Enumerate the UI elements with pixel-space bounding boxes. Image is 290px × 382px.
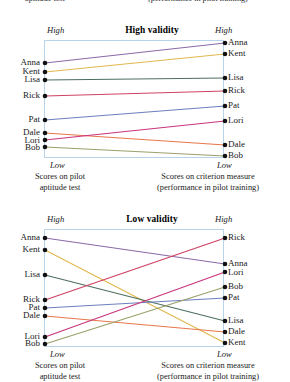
right-label-pat-low: Pat xyxy=(228,293,240,302)
slope-line-rick xyxy=(45,238,225,300)
slope-line-lori xyxy=(45,121,225,140)
left-label-lisa: Lisa xyxy=(25,75,41,84)
left-axis-low-anchor-low: Low xyxy=(50,348,65,360)
caption-right-low-line2: (performance in pilot training) xyxy=(128,372,288,382)
page-title-high-validity: High validity xyxy=(0,24,290,36)
panel-header-low: High Low validity High xyxy=(0,213,290,227)
panel-header-high: High High validity High xyxy=(0,24,290,38)
endpoint-dot-right-lisa xyxy=(223,319,228,324)
left-axis-low-anchor: Low xyxy=(50,159,65,171)
endpoint-dot-right-bob xyxy=(223,285,228,290)
endpoint-dot-right-pat xyxy=(223,104,228,109)
endpoint-dot-left-rick xyxy=(43,94,48,99)
right-label-kent-low: Kent xyxy=(228,338,246,347)
caption-left-high-line1: Scores on pilot xyxy=(6,172,114,183)
left-label-dale-low: Dale xyxy=(23,311,40,320)
left-label-pat: Pat xyxy=(28,115,40,124)
endpoint-dot-left-bob xyxy=(43,145,48,150)
slope-line-dale xyxy=(45,133,225,145)
right-label-dale-low: Dale xyxy=(228,327,245,336)
clipped-caption-right: (performance in pilot training) xyxy=(148,0,248,4)
low-anchor-row-low: Low Low xyxy=(0,348,290,361)
left-label-bob-low: Bob xyxy=(25,339,40,348)
endpoint-dot-left-dale xyxy=(43,314,48,319)
endpoint-dot-right-lisa xyxy=(223,76,228,81)
caption-left-low-line2: aptitude test xyxy=(6,372,114,382)
left-label-kent-low: Kent xyxy=(23,245,41,254)
right-label-lisa: Lisa xyxy=(228,73,244,82)
endpoint-dot-left-kent xyxy=(43,248,48,253)
endpoint-dot-right-kent xyxy=(223,341,228,346)
left-label-anna-low: Anna xyxy=(21,233,41,242)
endpoint-dot-right-lori xyxy=(223,270,228,275)
endpoint-dot-right-anna xyxy=(223,41,228,46)
slope-line-anna xyxy=(45,43,225,63)
endpoint-dot-left-lisa xyxy=(43,273,48,278)
panel-high-validity: High High validity High Anna Kent Lisa R… xyxy=(0,24,290,38)
endpoint-dot-left-pat xyxy=(43,306,48,311)
endpoint-dot-left-kent xyxy=(43,70,48,75)
right-axis-high-anchor-low: High xyxy=(215,213,232,225)
plot-area-high-validity xyxy=(44,40,224,158)
panel-low-validity: High Low validity High Anna Kent Lisa Ri… xyxy=(0,213,290,227)
right-label-column-low: Rick Anna Lori Bob Pat Lisa Dale Kent xyxy=(228,229,290,347)
endpoint-dot-left-anna xyxy=(43,236,48,241)
endpoint-dot-right-dale xyxy=(223,143,228,148)
endpoint-dot-right-bob xyxy=(223,154,228,159)
slope-line-anna xyxy=(45,238,225,264)
endpoint-dot-right-kent xyxy=(223,52,228,57)
plot-area-low-validity xyxy=(44,229,224,347)
right-axis-low-anchor-low: Low xyxy=(217,348,232,360)
slope-line-bob xyxy=(45,147,225,156)
slope-line-rick xyxy=(45,91,225,96)
right-label-column-high: Anna Kent Lisa Rick Pat Lori Dale Bob xyxy=(228,40,290,158)
right-label-rick-low: Rick xyxy=(228,233,245,242)
low-anchor-row-high: Low Low xyxy=(0,159,290,172)
right-label-kent: Kent xyxy=(228,49,246,58)
left-label-lisa-low: Lisa xyxy=(25,270,41,279)
left-label-column-high: Anna Kent Lisa Rick Pat Dale Lori Bob xyxy=(0,40,40,158)
slope-lines-low xyxy=(44,229,226,349)
right-label-bob-low: Bob xyxy=(228,282,243,291)
caption-right-high-line1: Scores on criterion measure xyxy=(128,172,288,183)
endpoint-dot-left-bob xyxy=(43,342,48,347)
clipped-caption-left: aptitude test xyxy=(25,0,65,4)
endpoint-dot-right-rick xyxy=(223,89,228,94)
endpoint-dot-left-lori xyxy=(43,335,48,340)
right-label-lisa-low: Lisa xyxy=(228,316,244,325)
right-label-dale: Dale xyxy=(228,140,245,149)
right-label-pat: Pat xyxy=(228,101,240,110)
slope-line-dale xyxy=(45,316,225,332)
endpoint-dot-left-anna xyxy=(43,61,48,66)
caption-left-low-line1: Scores on pilot xyxy=(6,361,114,372)
caption-left-high: Scores on pilot aptitude test xyxy=(6,172,114,193)
left-label-rick: Rick xyxy=(23,91,40,100)
caption-right-high: Scores on criterion measure (performance… xyxy=(128,172,288,193)
endpoint-dot-right-rick xyxy=(223,236,228,241)
caption-left-high-line2: aptitude test xyxy=(6,183,114,194)
left-label-bob: Bob xyxy=(25,143,40,152)
caption-right-low: Scores on criterion measure (performance… xyxy=(128,361,288,382)
left-label-column-low: Anna Kent Lisa Rick Pat Dale Lori Bob xyxy=(0,229,40,347)
endpoint-dot-left-pat xyxy=(43,118,48,123)
caption-right-low-line1: Scores on criterion measure xyxy=(128,361,288,372)
slope-line-kent xyxy=(45,54,225,72)
endpoint-dot-left-dale xyxy=(43,131,48,136)
caption-left-low: Scores on pilot aptitude test xyxy=(6,361,114,382)
right-label-rick: Rick xyxy=(228,86,245,95)
slope-line-pat xyxy=(45,106,225,120)
endpoint-dot-right-dale xyxy=(223,330,228,335)
right-label-anna: Anna xyxy=(228,38,248,47)
right-axis-high-anchor: High xyxy=(215,24,232,36)
page-title-low-validity: Low validity xyxy=(0,213,290,225)
endpoint-dot-left-rick xyxy=(43,298,48,303)
right-label-lori: Lori xyxy=(228,116,244,125)
endpoint-dot-left-lori xyxy=(43,138,48,143)
slope-lines-high xyxy=(44,40,226,160)
slope-line-pat xyxy=(45,298,225,308)
slope-line-lisa xyxy=(45,78,225,80)
right-label-lori-low: Lori xyxy=(228,268,244,277)
endpoint-dot-right-anna xyxy=(223,262,228,267)
caption-right-high-line2: (performance in pilot training) xyxy=(128,183,288,194)
